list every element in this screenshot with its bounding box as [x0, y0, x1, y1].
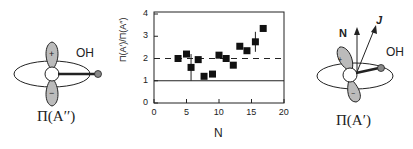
j-vector-icon [357, 30, 374, 72]
hydrogen-atom-icon [378, 65, 385, 72]
bottom-lobe-sign: − [351, 90, 355, 97]
right-state-label: Π(A′) [336, 112, 371, 129]
right-molecule-label: OH [386, 45, 404, 59]
top-lobe-sign: + [338, 56, 342, 63]
n-vector-label: N [339, 27, 347, 39]
j-vector-label: J [376, 14, 382, 26]
